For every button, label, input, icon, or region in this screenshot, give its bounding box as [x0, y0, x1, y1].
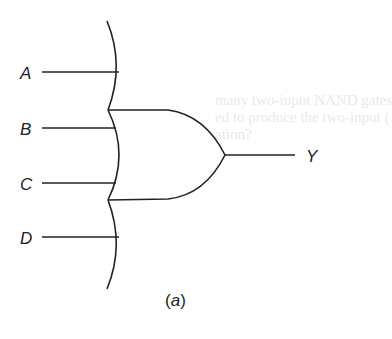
input-label-b: B	[20, 120, 31, 139]
input-extension-bottom-arc	[107, 200, 116, 289]
figure-caption: (a)	[165, 291, 186, 310]
input-extension-top-arc	[107, 21, 116, 110]
input-label-d: D	[20, 229, 32, 248]
gate-back-arc	[108, 110, 119, 200]
output-label-y: Y	[306, 147, 319, 166]
or-gate-body	[108, 110, 225, 200]
input-label-c: C	[20, 175, 33, 194]
input-label-a: A	[19, 64, 31, 83]
